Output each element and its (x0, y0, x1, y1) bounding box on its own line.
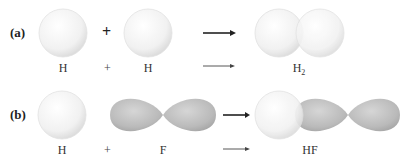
reaction-arrow-small-icon (223, 147, 250, 151)
h-s-orbital-sphere (38, 91, 86, 139)
reactant-label: H (43, 61, 83, 76)
reactant-label: F (143, 143, 183, 158)
reaction-arrow-small-icon (203, 64, 235, 68)
f-p-orbital-lobes (110, 99, 216, 131)
panel-b (38, 91, 400, 151)
product-label: HF (290, 143, 330, 158)
product-label: H2 (279, 61, 319, 77)
hf-overlap-orbital (255, 91, 400, 139)
h-s-orbital-sphere (39, 9, 87, 57)
panel-a (39, 9, 344, 68)
product-subscript: 2 (301, 68, 305, 77)
orbital-overlap-diagram (0, 0, 411, 161)
reaction-arrow-icon (203, 30, 236, 36)
reactant-label: H (42, 143, 82, 158)
panel-label-a: (a) (10, 25, 25, 41)
plus-sign: + (102, 23, 111, 41)
plus-sign-small: + (104, 143, 111, 158)
reaction-arrow-icon (223, 112, 250, 118)
reactant-label: H (128, 61, 168, 76)
plus-sign-small: + (104, 61, 111, 76)
h-s-orbital-sphere (124, 9, 172, 57)
panel-label-b: (b) (10, 107, 26, 123)
h2-overlap-orbital (255, 9, 344, 57)
